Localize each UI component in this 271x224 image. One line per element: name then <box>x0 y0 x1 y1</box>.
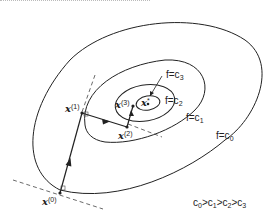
tangent-x2 <box>128 124 162 137</box>
step-0-1 <box>60 113 82 193</box>
label-f-c3: f=c3 <box>166 70 184 81</box>
point-x3 <box>131 104 134 107</box>
label-f-c1: f=c1 <box>186 113 204 124</box>
label-x2: x(2) <box>118 130 133 141</box>
point-x1 <box>80 111 83 114</box>
label-x3: x(3) <box>115 99 130 110</box>
label-f-c2: f=c2 <box>165 96 183 107</box>
label-x1: x(1) <box>65 103 80 114</box>
label-f-c0: f=c0 <box>216 131 234 142</box>
label-xstar: x* <box>141 97 150 108</box>
point-x2 <box>125 125 128 128</box>
label-x0: x(0) <box>42 196 57 207</box>
point-x0 <box>58 191 61 194</box>
level-curves-diagram <box>0 0 271 224</box>
tangent-x0 <box>13 180 103 209</box>
ordering-note: c0>c1>c2>c3 <box>193 198 246 209</box>
